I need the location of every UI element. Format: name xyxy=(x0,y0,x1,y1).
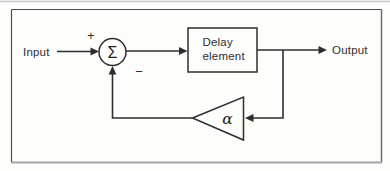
feedback-return-line xyxy=(113,72,193,118)
figure-canvas: Σ + − Delay element α Input Output xyxy=(0,0,390,171)
minus-sign: − xyxy=(135,64,143,79)
input-label: Input xyxy=(23,46,50,58)
input-arrowhead xyxy=(91,48,100,56)
block-diagram: Σ + − Delay element α Input Output xyxy=(0,0,390,171)
delay-input-arrowhead xyxy=(179,47,188,55)
feedback-arrowhead xyxy=(109,66,117,75)
output-arrowhead xyxy=(319,46,328,54)
delay-element-label-line2: element xyxy=(203,50,246,62)
delay-element-label-line1: Delay xyxy=(203,36,233,48)
gain-input-arrowhead xyxy=(245,114,254,122)
summing-junction-sigma: Σ xyxy=(108,44,118,61)
gain-alpha-label: α xyxy=(222,110,233,128)
plus-sign: + xyxy=(87,29,94,43)
feedback-gain-triangle xyxy=(193,97,244,140)
output-label: Output xyxy=(332,44,368,56)
